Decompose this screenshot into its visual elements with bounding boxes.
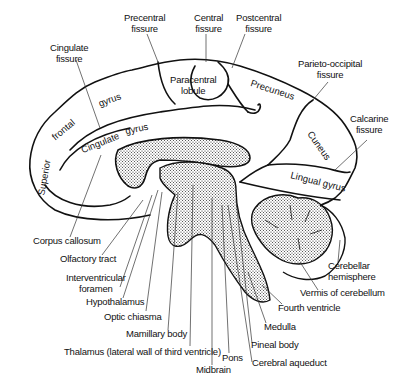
label-interventricular-foramen: Interventricular foramen [66, 272, 126, 294]
label-calcarine-fissure: Calcarine fissure [350, 113, 388, 135]
label-fourth-ventricle: Fourth ventricle [278, 302, 340, 313]
label-hypothalamus: Hypothalamus [86, 296, 144, 307]
label-corpus-callosum: Corpus callosum [33, 235, 101, 246]
label-vermis-of-cerebellum: Vermis of cerebellum [300, 287, 385, 298]
label-cingulate-fissure: Cingulate fissure [50, 42, 88, 64]
label-parieto-occipital-fissure: Parieto-occipital fissure [298, 58, 362, 80]
label-pons: Pons [222, 352, 243, 363]
brainstem [160, 162, 270, 302]
label-midbrain: Midbrain [196, 364, 231, 375]
label-thalamus: Thalamus (lateral wall of third ventricl… [64, 346, 221, 357]
label-optic-chiasma: Optic chiasma [104, 311, 162, 322]
label-olfactory-tract: Olfactory tract [60, 253, 116, 264]
label-cerebral-aqueduct: Cerebral aqueduct [252, 357, 327, 368]
label-central-fissure: Central fissure [194, 12, 223, 34]
label-mamillary-body: Mamillary body [126, 328, 187, 339]
label-pineal-body: Pineal body [251, 339, 298, 350]
label-medulla: Medulla [264, 321, 296, 332]
label-postcentral-fissure: Postcentral fissure [236, 12, 281, 34]
label-paracentral-lobule: Paracentral lobule [170, 74, 216, 96]
label-precentral-fissure: Precentral fissure [124, 12, 165, 34]
label-cerebellar-hemisphere: Cerebellar hemisphere [328, 260, 376, 282]
